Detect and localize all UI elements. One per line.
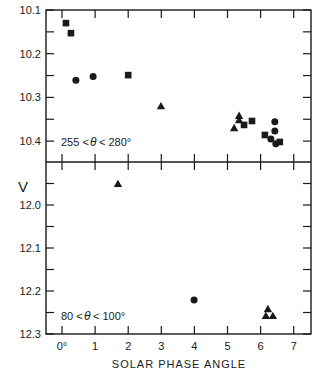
circle-marker <box>271 128 278 135</box>
plot-border <box>46 10 311 334</box>
circle-marker <box>191 297 198 304</box>
square-marker <box>125 72 132 79</box>
y-axis-label: V <box>18 178 28 195</box>
x-tick-label: 1 <box>92 340 98 352</box>
bottom-panel-annotation: 80 < θ < 100° <box>61 309 125 323</box>
square-marker <box>241 122 248 129</box>
square-marker <box>262 132 269 139</box>
phase-angle-chart: 10.110.210.310.412.012.112.212.30°123456… <box>0 0 319 372</box>
square-marker <box>68 30 75 37</box>
circle-marker <box>271 118 278 125</box>
y-tick-label: 10.4 <box>20 135 41 147</box>
data-points <box>63 20 283 319</box>
bottom-annotation-left: 80 < <box>61 310 83 322</box>
triangle-marker <box>157 102 165 109</box>
square-marker <box>249 118 256 125</box>
x-tick-label: 4 <box>191 340 197 352</box>
y-tick-label: 12.0 <box>20 199 41 211</box>
axis-ticks <box>46 10 311 334</box>
square-marker <box>63 20 70 27</box>
y-tick-label: 12.2 <box>20 285 41 297</box>
triangle-marker <box>230 124 238 131</box>
x-tick-label: 5 <box>224 340 230 352</box>
triangle-marker <box>114 180 122 187</box>
tick-labels: 10.110.210.310.412.012.112.212.30°123456… <box>20 4 297 352</box>
x-tick-label: 7 <box>291 340 297 352</box>
bottom-annotation-right: < 100° <box>93 310 125 322</box>
circle-marker <box>90 73 97 80</box>
x-axis-label: SOLAR PHASE ANGLE <box>112 358 246 370</box>
x-tick-label: 6 <box>258 340 264 352</box>
top-annotation-left: 255 < <box>61 136 89 148</box>
triangle-marker <box>269 312 277 319</box>
y-tick-label: 12.3 <box>20 328 41 340</box>
x-tick-label: 2 <box>125 340 131 352</box>
plot-frame <box>46 10 311 334</box>
theta-symbol: θ <box>84 309 91 323</box>
x-tick-label: 0° <box>57 340 68 352</box>
y-tick-label: 10.2 <box>20 48 41 60</box>
circle-marker <box>72 77 79 84</box>
y-tick-label: 10.1 <box>20 4 41 16</box>
top-annotation-right: < 280° <box>99 136 131 148</box>
y-tick-label: 12.1 <box>20 242 41 254</box>
theta-symbol: θ <box>90 135 97 149</box>
chart-canvas: 10.110.210.310.412.012.112.212.30°123456… <box>0 0 319 372</box>
y-tick-label: 10.3 <box>20 91 41 103</box>
triangle-marker <box>262 312 270 319</box>
triangle-marker <box>264 305 272 312</box>
x-tick-label: 3 <box>158 340 164 352</box>
square-marker <box>276 139 283 146</box>
top-panel-annotation: 255 < θ < 280° <box>61 135 131 149</box>
